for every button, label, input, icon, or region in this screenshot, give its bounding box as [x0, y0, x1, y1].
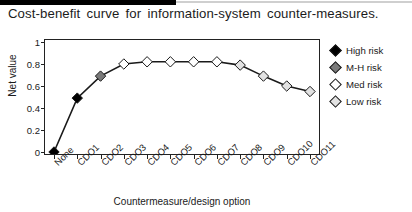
data-point-marker[interactable]	[258, 71, 268, 81]
chart-figure: 00.20.40.60.81 Net value NoneCDO1CDO2CDO…	[0, 36, 412, 212]
line-chart-canvas	[45, 40, 319, 154]
data-point-marker[interactable]	[212, 57, 222, 67]
chart-legend: High riskM-H riskMed riskLow risk	[330, 42, 412, 110]
legend-label: Med risk	[346, 79, 382, 90]
filled-diamond-icon	[329, 44, 342, 57]
y-tick-label: 0.4	[27, 103, 40, 114]
x-axis-title: Countermeasure/design option	[44, 196, 320, 207]
plot-area	[44, 39, 320, 155]
header-rule-light	[176, 1, 412, 3]
gray-diamond-icon	[329, 61, 342, 74]
data-point-marker[interactable]	[119, 59, 129, 69]
legend-label: M-H risk	[346, 62, 382, 73]
data-line	[54, 62, 310, 152]
legend-item[interactable]: Low risk	[330, 93, 412, 110]
data-point-marker[interactable]	[165, 57, 175, 67]
legend-item[interactable]: Med risk	[330, 76, 412, 93]
y-tick-label: 0	[35, 147, 40, 158]
light-diamond-icon	[329, 95, 342, 108]
y-axis-title: Net value	[7, 41, 18, 111]
data-point-marker[interactable]	[142, 57, 152, 67]
header-rule-dark	[0, 0, 176, 5]
y-tick-label: 0.8	[27, 59, 40, 70]
y-tick-label: 0.6	[27, 81, 40, 92]
y-tick-label: 0.2	[27, 125, 40, 136]
legend-item[interactable]: High risk	[330, 42, 412, 59]
data-point-marker[interactable]	[305, 86, 315, 96]
data-point-marker[interactable]	[282, 81, 292, 91]
legend-label: High risk	[346, 45, 383, 56]
legend-item[interactable]: M-H risk	[330, 59, 412, 76]
legend-label: Low risk	[346, 96, 381, 107]
y-tick-label: 1	[35, 37, 40, 48]
open-diamond-icon	[329, 78, 342, 91]
x-axis-labels: NoneCDO1CDO2CDO3CDO4CDO5CDO6CDO7CDO8CDO9…	[0, 158, 340, 198]
data-point-marker[interactable]	[188, 57, 198, 67]
figure-title: Cost-benefit curve for information-syste…	[8, 6, 408, 21]
data-point-marker[interactable]	[235, 60, 245, 70]
